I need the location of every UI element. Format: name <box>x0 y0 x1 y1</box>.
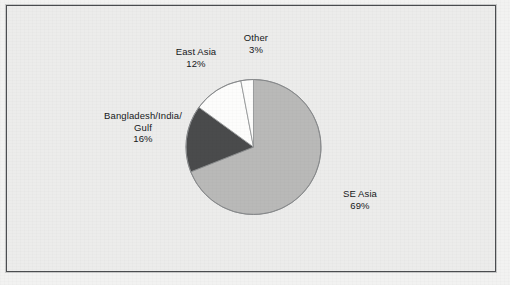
slice-label-east-asia: East Asia 12% <box>157 46 235 69</box>
slice-label-east-asia-value: 12% <box>157 58 235 70</box>
slice-label-se-asia-name: SE Asia <box>329 188 391 200</box>
slice-label-bangladesh-india-gulf-name-line2: Gulf <box>91 122 195 134</box>
pie-chart-figure: East Asia 12% Other 3% Bangladesh/India/… <box>0 0 510 285</box>
slice-label-other-name: Other <box>229 32 283 44</box>
slice-label-other-value: 3% <box>229 44 283 56</box>
pie-slices-group <box>186 80 321 215</box>
slice-label-se-asia-value: 69% <box>329 200 391 212</box>
chart-frame-border: East Asia 12% Other 3% Bangladesh/India/… <box>6 5 496 272</box>
slice-label-east-asia-name: East Asia <box>157 46 235 58</box>
slice-label-bangladesh-india-gulf: Bangladesh/India/ Gulf 16% <box>91 110 195 145</box>
plot-area: East Asia 12% Other 3% Bangladesh/India/… <box>7 6 495 271</box>
slice-label-bangladesh-india-gulf-value: 16% <box>91 133 195 145</box>
slice-label-bangladesh-india-gulf-name-line1: Bangladesh/India/ <box>91 110 195 122</box>
slice-label-other: Other 3% <box>229 32 283 55</box>
slice-label-se-asia: SE Asia 69% <box>329 188 391 211</box>
